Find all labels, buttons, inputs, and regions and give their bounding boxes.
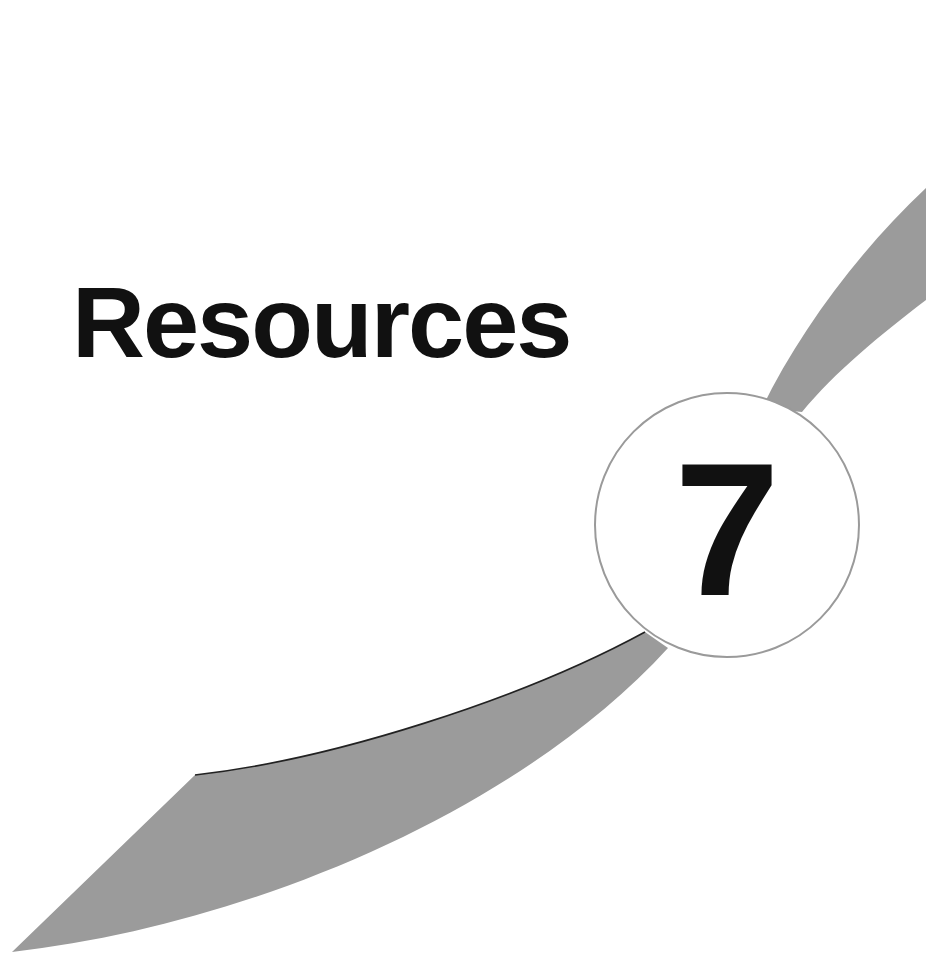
lower-swoosh-shape bbox=[12, 632, 668, 952]
upper-swoosh-shape bbox=[762, 188, 926, 412]
chapter-number-badge: 7 bbox=[594, 392, 860, 658]
chapter-number: 7 bbox=[674, 434, 780, 624]
chapter-title: Resources bbox=[72, 272, 571, 373]
